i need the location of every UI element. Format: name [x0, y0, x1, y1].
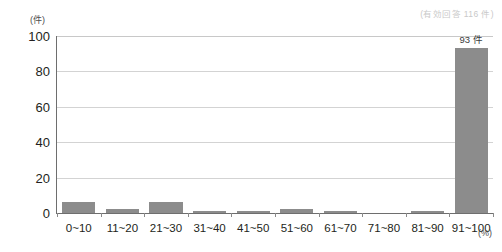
bars-layer: 93 件	[57, 36, 493, 213]
bar-chart-figure: (件) (有効回答 116 件) 020406080100 93 件 0~101…	[0, 0, 502, 252]
y-tick-label-20: 20	[4, 170, 50, 185]
bar	[149, 202, 182, 213]
x-axis-unit-label: (%)	[478, 228, 492, 238]
bar	[62, 202, 95, 213]
bar-slot: 93 件	[449, 36, 493, 213]
x-tick	[493, 213, 494, 217]
y-tick-label-100: 100	[4, 29, 50, 44]
x-tick-label-81~90: 81~90	[411, 222, 443, 234]
x-tick	[57, 213, 58, 217]
bar-slot	[144, 36, 188, 213]
x-axis-tick-labels: 0~1011~2021~3031~4041~5051~6061~7071~808…	[57, 222, 493, 240]
x-tick-label-71~80: 71~80	[368, 222, 400, 234]
bar-value-label: 93 件	[449, 32, 493, 46]
x-tick-label-0~10: 0~10	[66, 222, 92, 234]
bar-slot	[362, 36, 406, 213]
bar-slot	[188, 36, 232, 213]
y-tick-label-40: 40	[4, 135, 50, 150]
valid-responses-note: (有効回答 116 件)	[420, 7, 494, 19]
x-axis-ticks	[57, 213, 493, 218]
y-axis-unit-label: (件)	[30, 13, 45, 26]
x-tick-label-11~20: 11~20	[107, 222, 138, 234]
x-tick-label-41~50: 41~50	[237, 222, 269, 234]
y-tick-label-0: 0	[4, 206, 50, 221]
x-tick	[362, 213, 363, 217]
bar-slot	[57, 36, 101, 213]
bar-slot	[231, 36, 275, 213]
x-tick	[144, 213, 145, 217]
x-tick	[449, 213, 450, 217]
y-axis-tick-labels: 020406080100	[0, 36, 50, 214]
x-tick	[319, 213, 320, 217]
x-tick	[188, 213, 189, 217]
x-tick	[275, 213, 276, 217]
x-tick-label-61~70: 61~70	[324, 222, 356, 234]
y-tick-label-60: 60	[4, 99, 50, 114]
y-tick-label-80: 80	[4, 64, 50, 79]
bar-slot	[275, 36, 319, 213]
x-tick-label-31~40: 31~40	[193, 222, 225, 234]
bar-slot	[101, 36, 145, 213]
bar	[455, 48, 488, 213]
x-tick-label-21~30: 21~30	[150, 222, 182, 234]
bar-slot	[406, 36, 450, 213]
bar-slot	[319, 36, 363, 213]
x-tick	[231, 213, 232, 217]
x-tick	[101, 213, 102, 217]
x-tick-label-51~60: 51~60	[281, 222, 313, 234]
x-tick	[406, 213, 407, 217]
